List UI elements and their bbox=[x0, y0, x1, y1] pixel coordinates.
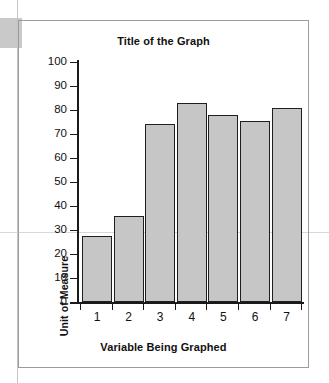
y-axis-tick-label: 90 bbox=[27, 80, 67, 92]
y-axis-tick bbox=[70, 86, 77, 87]
y-axis-tick-label: 30 bbox=[27, 224, 67, 236]
y-axis-tick-label-text: 30 bbox=[27, 224, 67, 236]
x-axis-tick-label: 3 bbox=[147, 311, 173, 323]
y-axis-tick-label: 0 bbox=[27, 296, 67, 308]
y-axis-tick-label-text: 80 bbox=[27, 104, 67, 116]
x-axis-tick-label: 5 bbox=[210, 311, 236, 323]
chart-title: Title of the Graph bbox=[18, 35, 309, 47]
y-axis-tick bbox=[70, 158, 77, 159]
bar bbox=[114, 216, 144, 302]
y-axis-tick-label-text: 0 bbox=[27, 296, 67, 308]
y-axis-tick bbox=[70, 110, 77, 111]
bar bbox=[240, 121, 270, 302]
y-axis-tick bbox=[70, 62, 77, 63]
y-axis-tick-label: 50 bbox=[27, 176, 67, 188]
x-axis-tick bbox=[206, 303, 207, 310]
y-axis-tick-label: 80 bbox=[27, 104, 67, 116]
x-axis-tick-label: 7 bbox=[274, 311, 300, 323]
y-axis-line bbox=[77, 60, 79, 304]
bar bbox=[272, 108, 302, 302]
bar bbox=[177, 103, 207, 302]
y-axis-tick bbox=[70, 206, 77, 207]
y-axis-tick-label-text: 40 bbox=[27, 200, 67, 212]
y-axis-tick-label-text: 90 bbox=[27, 80, 67, 92]
y-axis-tick-label-text: 10 bbox=[27, 272, 67, 284]
y-axis-tick-label: 10 bbox=[27, 272, 67, 284]
x-axis-tick-label: 1 bbox=[84, 311, 110, 323]
x-axis-tick bbox=[238, 303, 239, 310]
y-axis-tick-label-text: 70 bbox=[27, 128, 67, 140]
x-axis-title: Variable Being Graphed bbox=[18, 341, 309, 353]
y-axis-tick-label-text: 50 bbox=[27, 176, 67, 188]
x-axis-tick bbox=[80, 303, 81, 310]
x-axis-tick-label: 4 bbox=[179, 311, 205, 323]
y-axis-tick bbox=[70, 134, 77, 135]
x-axis-tick-label: 2 bbox=[116, 311, 142, 323]
y-axis-tick-label: 60 bbox=[27, 152, 67, 164]
y-axis-tick bbox=[70, 230, 77, 231]
y-axis-tick-label: 20 bbox=[27, 248, 67, 260]
bar bbox=[208, 115, 238, 302]
x-axis-tick bbox=[270, 303, 271, 310]
bar bbox=[145, 124, 175, 302]
x-axis-tick bbox=[143, 303, 144, 310]
y-axis-tick-label: 70 bbox=[27, 128, 67, 140]
y-axis-tick-label: 100 bbox=[27, 56, 67, 68]
y-axis-tick-label-text: 20 bbox=[27, 248, 67, 260]
x-axis-tick bbox=[112, 303, 113, 310]
bar bbox=[82, 236, 112, 302]
y-axis-tick bbox=[70, 302, 77, 303]
y-axis-tick bbox=[70, 182, 77, 183]
x-axis-tick bbox=[301, 303, 302, 310]
x-axis-tick-label: 6 bbox=[242, 311, 268, 323]
y-axis-tick-label-text: 100 bbox=[27, 56, 67, 68]
y-axis-tick bbox=[70, 254, 77, 255]
y-axis-title-wrap: Unit of Measure bbox=[40, 140, 41, 141]
x-axis-tick bbox=[175, 303, 176, 310]
y-axis-tick bbox=[70, 278, 77, 279]
y-axis-tick-label-text: 60 bbox=[27, 152, 67, 164]
y-axis-tick-label: 40 bbox=[27, 200, 67, 212]
